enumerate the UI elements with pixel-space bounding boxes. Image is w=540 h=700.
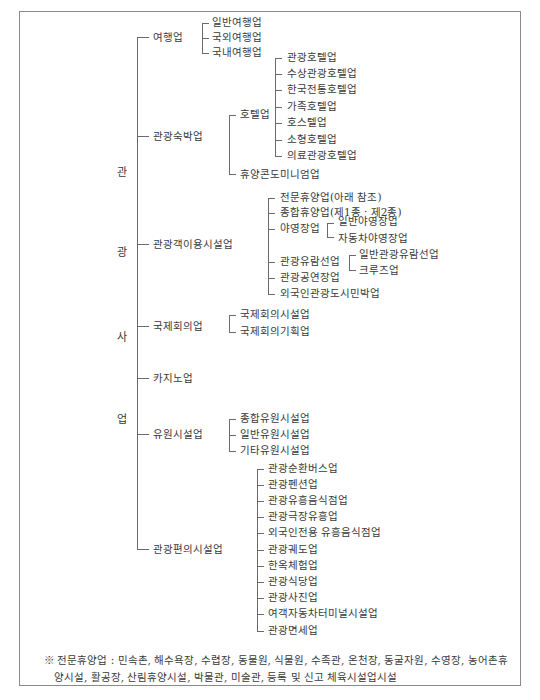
amusement-comprehensive: 종합유원시설업 (240, 412, 310, 425)
branch-line (229, 419, 236, 420)
root-char-4: 업 (117, 410, 127, 426)
branch-line (268, 294, 275, 295)
convenience-foreigner-entertainment: 외국인전용 유흥음식점업 (268, 526, 381, 539)
cruise-cruise: 크루즈업 (359, 264, 399, 277)
branch-line (327, 223, 334, 224)
branch-line (257, 501, 264, 502)
travel-domestic: 국내여행업 (212, 46, 262, 59)
branch-line (275, 90, 282, 91)
footnote: ※ 전문휴양업 : 민속촌, 해수욕장, 수렵장, 동물원, 식물원, 수족관,… (44, 652, 514, 686)
branch-line (275, 74, 282, 75)
convenience-restaurant: 관광식당업 (268, 575, 318, 588)
branch-line (229, 451, 236, 452)
branch-line (202, 53, 209, 54)
travel-overseas: 국외여행업 (212, 31, 262, 44)
facility-cruise-ship: 관광유람선업 (280, 255, 340, 268)
branch-line (257, 614, 264, 615)
convenience-cableway: 관광궤도업 (268, 543, 318, 556)
branch-line (229, 315, 236, 316)
bracket-line (229, 315, 230, 332)
bracket-line (349, 255, 350, 270)
branch-line (229, 115, 236, 116)
branch-line (202, 23, 209, 24)
hotel-floating: 수상관광호텔업 (287, 67, 357, 80)
branch-line (137, 378, 149, 379)
branch-line (257, 517, 264, 518)
cruise-general: 일반관광유람선업 (359, 248, 439, 261)
bracket-line (327, 223, 328, 237)
branch-line (137, 326, 149, 327)
branch-line (137, 434, 149, 435)
campsite-auto: 자동차야영장업 (338, 232, 408, 245)
root-char-1: 관 (117, 163, 127, 179)
convenience-pension: 관광펜션업 (268, 478, 318, 491)
hotel-family: 가족호텔업 (287, 100, 337, 113)
branch-line (275, 156, 282, 157)
lodging-hotel: 호텔업 (240, 108, 270, 121)
convenience-duty-free: 관광면세업 (268, 624, 318, 637)
branch-line (275, 107, 282, 108)
amusement-general: 일반유원시설업 (240, 428, 310, 441)
category-lodging: 관광숙박업 (153, 130, 203, 143)
branch-line (257, 598, 264, 599)
convenience-photo: 관광사진업 (268, 591, 318, 604)
convenience-bus-terminal: 여객자동차터미널시설업 (268, 607, 378, 620)
branch-line (202, 38, 209, 39)
branch-line (268, 262, 275, 263)
lodging-condo: 휴양콘도미니엄업 (240, 168, 320, 181)
branch-line (268, 198, 275, 199)
convenience-entertainment-restaurant: 관광유흥음식점업 (268, 494, 348, 507)
amusement-other: 기타유원시설업 (240, 444, 310, 457)
branch-line (268, 278, 275, 279)
branch-line (268, 213, 275, 214)
branch-line (268, 229, 275, 230)
hotel-traditional: 한국전통호텔업 (287, 83, 357, 96)
hotel-tourist: 관광호텔업 (287, 51, 337, 64)
convenience-tour-bus: 관광순환버스업 (268, 462, 338, 475)
root-char-2: 광 (117, 243, 127, 259)
facility-campsite: 야영장업 (280, 222, 320, 235)
branch-line (327, 237, 334, 238)
category-amusement: 유원시설업 (153, 428, 203, 441)
campsite-general: 일반야영장업 (338, 215, 398, 228)
footnote-line-1: ※ 전문휴양업 : 민속촌, 해수욕장, 수렵장, 동물원, 식물원, 수족관,… (44, 652, 514, 669)
branch-line (275, 58, 282, 59)
branch-line (137, 136, 149, 137)
branch-line (137, 549, 149, 550)
main-trunk-line (137, 37, 138, 549)
branch-line (275, 123, 282, 124)
category-casino: 카지노업 (153, 372, 193, 385)
branch-line (257, 485, 264, 486)
root-char-3: 사 (117, 328, 127, 344)
branch-line (257, 469, 264, 470)
branch-line (257, 631, 264, 632)
bracket-line (229, 115, 230, 174)
convenience-hanok: 한옥체험업 (268, 559, 318, 572)
branch-line (257, 533, 264, 534)
travel-general: 일반여행업 (212, 16, 262, 29)
category-visitor-facility: 관광객이용시설업 (153, 238, 233, 251)
hotel-hostel: 호스텔업 (287, 116, 327, 129)
category-convenience: 관광편의시설업 (153, 543, 223, 556)
convention-planning: 국제회의기획업 (240, 325, 310, 338)
facility-special-resort: 전문휴양업(아래 참조) (280, 191, 382, 204)
branch-line (257, 582, 264, 583)
hotel-small: 소형호텔업 (287, 133, 337, 146)
category-travel: 여행업 (153, 31, 183, 44)
branch-line (229, 435, 236, 436)
category-convention: 국제회의업 (153, 320, 203, 333)
facility-foreigner-homestay: 외국인관광도시민박업 (280, 287, 380, 300)
footnote-line-2: 양시설, 활공장, 산림휴양시설, 박물관, 미술관, 등록 및 신고 체육시설… (44, 669, 514, 686)
hotel-medical: 의료관광호텔업 (287, 149, 357, 162)
branch-line (137, 244, 149, 245)
branch-line (229, 332, 236, 333)
convention-facility: 국제회의시설업 (240, 308, 310, 321)
branch-line (257, 566, 264, 567)
facility-performance-hall: 관광공연장업 (280, 271, 340, 284)
branch-line (229, 174, 236, 175)
branch-line (137, 37, 149, 38)
convenience-theater-entertainment: 관광극장유흥업 (268, 510, 338, 523)
branch-line (349, 255, 356, 256)
branch-line (349, 270, 356, 271)
branch-line (275, 140, 282, 141)
